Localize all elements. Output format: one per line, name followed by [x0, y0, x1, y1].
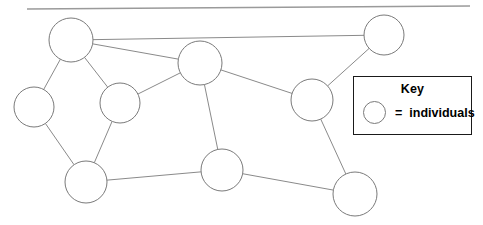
edge-n1-n5: [93, 35, 364, 39]
key-title: Key: [354, 82, 471, 96]
individual-node-n2: [14, 87, 54, 127]
key-equals-sign: =: [395, 106, 402, 120]
individual-node-n6: [291, 79, 333, 121]
edge-n2-n7: [45, 123, 74, 164]
individual-node-swatch-icon: [363, 101, 386, 124]
edge-n6-n9: [321, 119, 346, 174]
individual-node-n1: [49, 18, 93, 62]
edge-n3-n7: [94, 121, 112, 162]
edge-n4-n6: [221, 70, 292, 94]
individual-node-n5: [364, 15, 404, 55]
individual-node-n7: [65, 161, 107, 203]
top-divider-rule: [27, 6, 470, 9]
edge-n1-n3: [85, 57, 108, 87]
edge-n4-n8: [204, 85, 217, 150]
edge-n1-n4: [93, 44, 179, 59]
edge-n7-n8: [107, 172, 201, 180]
individual-node-n9: [333, 172, 377, 216]
key-legend-box: Key = individuals: [353, 76, 472, 135]
nodes-layer: [14, 15, 404, 216]
edge-n8-n9: [243, 174, 334, 190]
edge-n3-n4: [138, 73, 180, 94]
key-legend-row: = individuals: [354, 101, 471, 124]
individual-node-n4: [178, 41, 222, 85]
network-diagram-canvas: Key = individuals: [0, 0, 483, 225]
individual-node-n8: [201, 149, 243, 191]
key-entry-label: individuals: [409, 106, 474, 120]
individual-node-n3: [100, 83, 140, 123]
edge-n1-n2: [44, 59, 61, 89]
